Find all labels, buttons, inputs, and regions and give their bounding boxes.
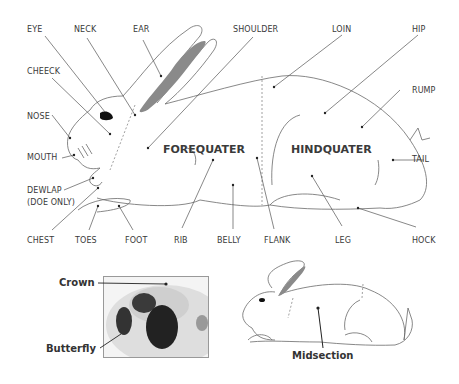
label-mouth: MOUTH <box>27 153 57 163</box>
label-rump: RUMP <box>412 86 436 96</box>
label-eye: EYE <box>27 25 42 35</box>
label-cheek: CHEECK <box>27 67 60 77</box>
label-foot: FOOT <box>125 236 147 246</box>
label-dewlap: DEWLAP <box>27 186 62 196</box>
label-toes: TOES <box>75 236 97 246</box>
label-leg: LEG <box>335 236 351 246</box>
label-loin: LOIN <box>332 25 351 35</box>
label-nose: NOSE <box>27 112 50 122</box>
label-hindquarter: HINDQUATER <box>291 143 372 156</box>
label-butterfly: Butterfly <box>46 343 96 354</box>
label-flank: FLANK <box>264 236 290 246</box>
label-neck: NECK <box>74 25 96 35</box>
label-forequarter: FOREQUATER <box>163 143 245 156</box>
label-midsection: Midsection <box>292 350 353 361</box>
label-hip: HIP <box>412 25 426 35</box>
label-tail: TAIL <box>412 155 429 165</box>
label-hock: HOCK <box>412 236 436 246</box>
label-ear: EAR <box>133 25 149 35</box>
label-chest: CHEST <box>27 236 54 246</box>
label-shoulder: SHOULDER <box>233 25 278 35</box>
label-crown: Crown <box>59 277 95 288</box>
label-belly: BELLY <box>217 236 241 246</box>
label-rib: RIB <box>174 236 188 246</box>
label-dewlap-note: (DOE ONLY) <box>27 198 75 208</box>
photo-leader-lines <box>0 0 459 384</box>
